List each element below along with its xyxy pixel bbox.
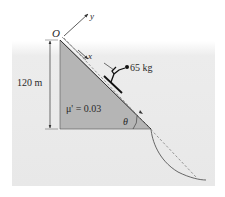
x-axis-label: x <box>87 51 92 61</box>
friction-coefficient-label: μ' = 0.03 <box>66 103 101 114</box>
height-label: 120 m <box>17 77 43 88</box>
ski-jump-diagram: O y x 65 kg 120 m μ' = 0.03 θ <box>0 0 225 197</box>
y-axis-label: y <box>89 11 94 21</box>
angle-theta-label: θ <box>123 116 128 127</box>
mass-label: 65 kg <box>130 62 153 73</box>
origin-label: O <box>52 27 60 39</box>
